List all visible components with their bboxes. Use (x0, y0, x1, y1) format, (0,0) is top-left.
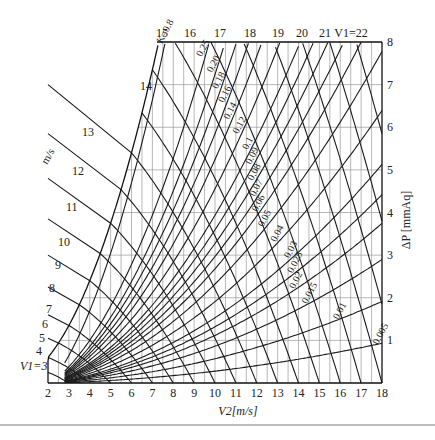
v1-top-label: 21 (319, 26, 331, 40)
y-tick-label: 3 (387, 248, 393, 262)
y-tick-label: 6 (387, 120, 393, 134)
v1-left-label: V1=3 (20, 359, 47, 373)
pressure-regain-chart: K=0.80.250.200.180.160.140.120.10.090.08… (0, 0, 435, 440)
v1-left-label: 14 (140, 79, 152, 93)
v1-left-label: 13 (82, 125, 94, 139)
x-tick-label: 4 (87, 386, 93, 400)
y-tick-label: 2 (387, 291, 393, 305)
x-tick-label: 16 (334, 386, 346, 400)
v1-top-label: 16 (184, 26, 196, 40)
v1-left-label: 10 (58, 235, 70, 249)
left-unit-label: m/s (38, 146, 56, 166)
k-label: 0.015 (299, 280, 319, 305)
y-axis-title: ΔP [mmAq] (399, 191, 413, 249)
x-tick-label: 13 (272, 386, 284, 400)
x-tick-label: 7 (149, 386, 155, 400)
v1-top-label: 19 (272, 26, 284, 40)
x-tick-label: 10 (209, 386, 221, 400)
x-tick-label: 3 (66, 386, 72, 400)
x-tick-label: 14 (293, 386, 305, 400)
y-tick-label: 7 (387, 78, 393, 92)
k-label: 0.01 (330, 300, 348, 321)
x-tick-label: 6 (129, 386, 135, 400)
k-curves: K=0.80.250.200.180.160.140.120.10.090.08… (65, 17, 391, 382)
v1-left-label: 6 (42, 317, 48, 331)
x-tick-label: 2 (45, 386, 51, 400)
k-label: 0.25 (194, 38, 212, 59)
y-tick-label: 4 (387, 206, 393, 220)
x-tick-label: 17 (355, 386, 367, 400)
v1-top-label: 18 (244, 26, 256, 40)
v1-left-label: 5 (39, 331, 45, 345)
x-tick-label: 12 (251, 386, 263, 400)
y-tick-label: 1 (387, 333, 393, 347)
v1-left-label: 9 (55, 258, 61, 272)
v1-top-label: 15 (156, 26, 168, 40)
axis-ticks: 2345678910111213141516171812345678151617… (20, 26, 393, 400)
v1-left-label: 11 (66, 200, 78, 214)
v1-top-label: V1=22 (334, 26, 367, 40)
v1-left-label: 7 (46, 302, 52, 316)
k-label: 0.04 (268, 223, 286, 244)
divider-rule (0, 424, 435, 426)
v1-left-label: 12 (72, 164, 84, 178)
v1-left-label: 4 (36, 344, 42, 358)
v1-top-label: 17 (214, 26, 226, 40)
x-tick-label: 11 (230, 386, 242, 400)
x-tick-label: 5 (108, 386, 114, 400)
x-axis-title: V2[m/s] (218, 404, 258, 418)
y-tick-label: 5 (387, 163, 393, 177)
x-tick-label: 9 (191, 386, 197, 400)
v1-top-label: 20 (296, 26, 308, 40)
v1-left-label: 8 (49, 281, 55, 295)
y-tick-label: 8 (387, 35, 393, 49)
x-tick-label: 8 (170, 386, 176, 400)
x-tick-label: 15 (313, 386, 325, 400)
x-tick-label: 18 (376, 386, 388, 400)
